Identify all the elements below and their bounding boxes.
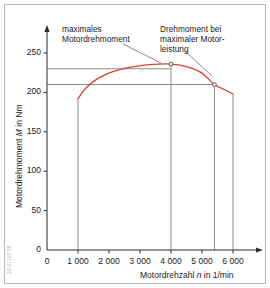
- data-point-markers: [169, 62, 216, 86]
- y-axis-title: Motordrehmoment M in Nm: [14, 105, 24, 208]
- y-tick-label: 0: [15, 244, 41, 254]
- tick-marks: [44, 53, 234, 254]
- plot-area: 050100150200250 01 0002 0003 0004 0005 0…: [0, 0, 270, 288]
- dropline-group: [78, 64, 233, 250]
- figure-side-code: 2S-01108-38: [7, 246, 12, 274]
- annot-torque-at-max-power: Drehmoment bei maximaler Motor- leistung: [160, 24, 225, 54]
- reference-lines: [47, 69, 214, 85]
- x-tick-label: 6 000: [213, 256, 253, 266]
- chart-figure: 050100150200250 01 0002 0003 0004 0005 0…: [0, 0, 270, 288]
- y-tick-label: 200: [15, 86, 41, 96]
- x-axis-title: Motordrehzahl n in 1/min: [140, 270, 234, 280]
- y-tick-label: 250: [15, 47, 41, 57]
- annot-max-torque: maximales Motordrehmoment: [62, 24, 130, 44]
